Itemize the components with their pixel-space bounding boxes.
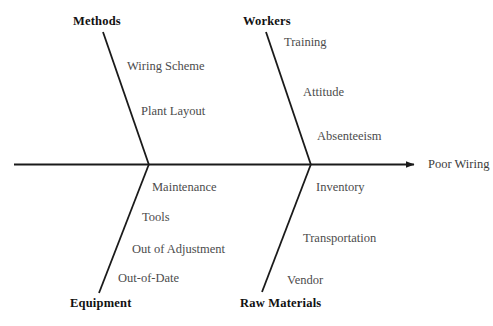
cause-label-vendor: Vendor (287, 274, 323, 287)
cause-label-tools: Tools (142, 211, 170, 224)
cause-label-out-of-date: Out-of-Date (118, 272, 179, 285)
cause-label-maintenance: Maintenance (152, 181, 217, 194)
bone-methods (103, 32, 149, 165)
fishbone-diagram: Poor Wiring Methods Wiring Scheme Plant … (0, 0, 493, 326)
cause-label-plant-layout: Plant Layout (141, 105, 205, 118)
category-label-equipment: Equipment (70, 297, 132, 310)
category-label-workers: Workers (243, 15, 291, 28)
fishbone-skeleton (0, 0, 493, 326)
cause-label-transportation: Transportation (303, 232, 376, 245)
category-label-methods: Methods (73, 15, 121, 28)
cause-label-inventory: Inventory (316, 181, 365, 194)
effect-label: Poor Wiring (428, 158, 489, 171)
cause-label-out-of-adjustment: Out of Adjustment (132, 243, 225, 256)
cause-label-wiring-scheme: Wiring Scheme (127, 60, 205, 73)
cause-label-absenteeism: Absenteeism (317, 130, 382, 143)
cause-label-training: Training (284, 36, 327, 49)
category-label-raw-materials: Raw Materials (240, 297, 321, 310)
cause-label-attitude: Attitude (303, 86, 344, 99)
